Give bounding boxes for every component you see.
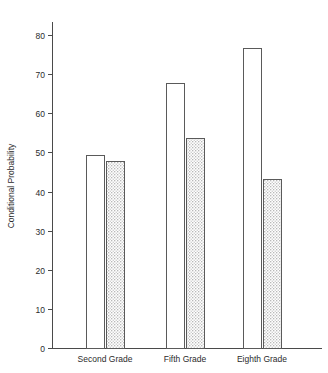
y-tick-label: 0 — [40, 344, 45, 354]
y-tick-label: 30 — [36, 227, 46, 237]
y-tick-label: 50 — [36, 148, 46, 158]
chart-container: 01020304050607080 Second GradeFifth Grad… — [0, 0, 328, 373]
y-tick-label: 70 — [36, 70, 46, 80]
x-category-label: Second Grade — [78, 354, 133, 364]
y-axis-title-text: Conditional Probability — [6, 143, 16, 228]
bar-fifth-grade-open — [167, 84, 185, 349]
category-label-group: Second GradeFifth GradeEighth Grade — [78, 354, 288, 364]
x-category-label: Eighth Grade — [237, 354, 287, 364]
bar-fifth-grade-stippled — [187, 139, 205, 349]
y-tick-label: 10 — [36, 305, 46, 315]
y-tick-label: 80 — [36, 31, 46, 41]
y-tick-label: 60 — [36, 109, 46, 119]
y-tick-label: 40 — [36, 188, 46, 198]
y-axis-title: Conditional Probability — [6, 143, 16, 228]
y-tick-group: 01020304050607080 — [36, 31, 53, 354]
y-tick-label: 20 — [36, 266, 46, 276]
bars-group — [87, 49, 282, 349]
bar-second-grade-open — [87, 156, 105, 349]
x-category-label: Fifth Grade — [164, 354, 207, 364]
bar-eighth-grade-stippled — [264, 180, 282, 349]
bar-second-grade-stippled — [107, 162, 125, 349]
bar-chart: 01020304050607080 Second GradeFifth Grad… — [0, 0, 328, 373]
bar-eighth-grade-open — [244, 49, 262, 349]
plot-area: 01020304050607080 Second GradeFifth Grad… — [36, 22, 322, 364]
